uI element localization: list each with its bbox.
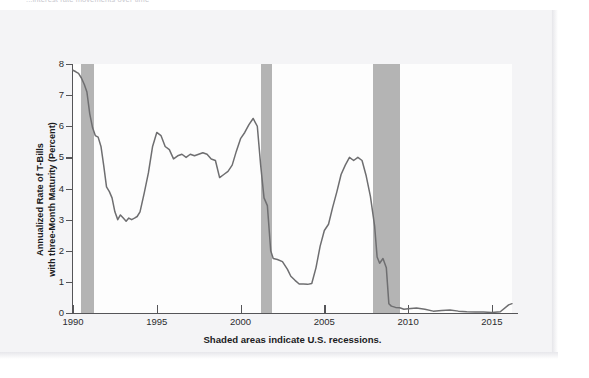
y-tick (66, 126, 73, 127)
data-series-tbill-rate (73, 64, 512, 313)
x-tick-label: 1995 (146, 316, 167, 327)
y-tick (66, 64, 73, 65)
y-tick (66, 95, 73, 96)
y-tick-label: 8 (42, 58, 64, 69)
line-chart: 012345678 199019952000200520102015 Annua… (0, 0, 589, 378)
y-tick (66, 220, 73, 221)
y-tick (66, 189, 73, 190)
x-axis-line (72, 313, 518, 314)
page-background: ...interest rate movements over time 012… (0, 0, 589, 378)
y-tick (66, 251, 73, 252)
y-tick (66, 282, 73, 283)
x-tick-label: 2000 (230, 316, 251, 327)
y-tick (66, 313, 73, 314)
x-tick-label: 2015 (481, 316, 502, 327)
x-tick-label: 1990 (62, 316, 83, 327)
y-axis-title: Annualized Rate of T-Bills with three-Mo… (35, 75, 58, 325)
x-tick-label: 2005 (314, 316, 335, 327)
x-tick-label: 2010 (398, 316, 419, 327)
y-axis-title-line1: Annualized Rate of T-Bills (35, 143, 45, 256)
y-axis-title-line2: with three-Month Maturity (Percent) (46, 122, 56, 277)
y-tick (66, 157, 73, 158)
x-axis-caption: Shaded areas indicate U.S. recessions. (73, 334, 512, 345)
